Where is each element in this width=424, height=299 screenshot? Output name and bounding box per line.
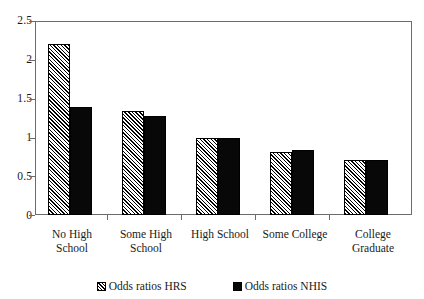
x-axis-separator-1 xyxy=(107,214,108,220)
bar-group-no-high-school xyxy=(48,22,92,215)
y-tick-label-0: 0 xyxy=(0,210,32,222)
x-label-line-2: School xyxy=(35,241,109,255)
bar-nhis-some-college xyxy=(292,150,314,215)
bar-group-some-college xyxy=(270,22,314,215)
legend-item-hrs: Odds ratios HRS xyxy=(97,280,187,292)
y-tick-label-1: 1 xyxy=(0,132,32,144)
chart-legend: Odds ratios HRS Odds ratios NHIS xyxy=(0,277,424,295)
x-axis-separator-4 xyxy=(329,214,330,220)
y-tick-label-2.5: 2.5 xyxy=(0,15,32,27)
bar-hrs-high-school xyxy=(196,138,218,215)
legend-label-nhis: Odds ratios NHIS xyxy=(245,280,327,292)
bar-hrs-some-college xyxy=(270,152,292,215)
bar-group-high-school xyxy=(196,22,240,215)
x-label-line-2: School xyxy=(109,241,183,255)
x-label-no-high-school: No High School xyxy=(35,227,109,255)
bar-nhis-high-school xyxy=(218,138,240,215)
x-label-line-1: Some College xyxy=(257,227,333,241)
legend-item-nhis: Odds ratios NHIS xyxy=(233,280,327,292)
x-label-some-high-school: Some High School xyxy=(109,227,183,255)
y-tick-mark-0 xyxy=(29,215,35,216)
legend-label-hrs: Odds ratios HRS xyxy=(109,280,187,292)
filled-square-icon xyxy=(233,282,242,291)
x-label-some-college: Some College xyxy=(257,227,333,241)
x-label-line-1: High School xyxy=(183,227,257,241)
x-label-line-1: No High xyxy=(35,227,109,241)
bar-group-college-graduate xyxy=(344,22,388,215)
bar-nhis-no-high-school xyxy=(70,107,92,215)
x-label-line-2: Graduate xyxy=(335,241,411,255)
hatched-square-icon xyxy=(97,282,106,291)
bar-nhis-college-graduate xyxy=(366,160,388,215)
x-label-college-graduate: College Graduate xyxy=(335,227,411,255)
x-axis-labels: No High School Some High School High Sch… xyxy=(35,227,412,269)
x-axis-separator-3 xyxy=(255,214,256,220)
y-tick-label-1.5: 1.5 xyxy=(0,93,32,105)
x-label-line-1: College xyxy=(335,227,411,241)
bar-hrs-no-high-school xyxy=(48,44,70,215)
bar-nhis-some-high-school xyxy=(144,116,166,215)
y-tick-label-2: 2 xyxy=(0,54,32,66)
bar-group-some-high-school xyxy=(122,22,166,215)
bars-layer xyxy=(36,22,411,215)
x-label-line-1: Some High xyxy=(109,227,183,241)
bar-hrs-college-graduate xyxy=(344,160,366,215)
x-label-high-school: High School xyxy=(183,227,257,241)
x-axis-separator-2 xyxy=(181,214,182,220)
bar-hrs-some-high-school xyxy=(122,111,144,215)
y-axis: 2.5 2 1.5 1 0.5 0 xyxy=(0,0,32,299)
y-tick-label-0.5: 0.5 xyxy=(0,171,32,183)
bar-chart: 2.5 2 1.5 1 0.5 0 xyxy=(0,0,424,299)
